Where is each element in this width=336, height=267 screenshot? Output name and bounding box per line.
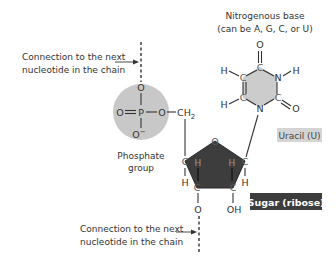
ch2-group: CH2	[177, 107, 195, 121]
sugar-label: Sugar (ribose)	[248, 193, 325, 210]
c6-h-bond	[229, 99, 239, 104]
top-connection-annotation: Connection to the next nucleotide in the…	[22, 52, 139, 75]
arrow-right-icon	[191, 230, 197, 235]
top-connection-line1: Connection to the next	[22, 52, 126, 62]
ribose-2-hydroxyl: OH	[227, 204, 242, 215]
ribose-c3: C	[194, 182, 201, 193]
uracil-c2-oxygen: O	[292, 103, 299, 114]
top-connection-line2: nucleotide in the chain	[22, 65, 125, 75]
uracil-n3-hydrogen: H	[292, 65, 299, 76]
phosphate-label-line1: Phosphate	[117, 151, 165, 161]
ribose-outer-h-left: H	[181, 177, 188, 188]
ribose-sugar: O C C C C H H H H O OH	[181, 136, 248, 215]
uracil-c6-hydrogen: H	[220, 99, 227, 110]
n3-h-bond	[283, 71, 291, 76]
bottom-connection-line2: nucleotide in the chain	[80, 237, 183, 247]
bottom-connection-annotation: Connection to the next nucleotide in the…	[80, 224, 197, 247]
phosphate-top-oxygen: O	[137, 82, 144, 93]
uracil-base: Nitrogenous base (can be A, G, C, or U) …	[217, 11, 312, 114]
uracil-c6: C	[240, 92, 247, 103]
phosphate-left-oxygen: O	[116, 107, 123, 118]
nucleotide-diagram: Connection to the next nucleotide in the…	[0, 0, 336, 267]
ribose-inner-h-left: H	[195, 158, 202, 168]
ribose-c2: C	[230, 182, 237, 193]
c5-h-bond	[229, 71, 239, 76]
uracil-top-oxygen: O	[256, 39, 263, 50]
ribose-c1: C	[242, 156, 249, 167]
nitrogenous-base-subtitle: (can be A, G, C, or U)	[217, 24, 312, 34]
nitrogenous-base-title: Nitrogenous base	[226, 11, 305, 21]
phosphate-label-line2: group	[128, 163, 154, 173]
sugar-label-text: Sugar (ribose)	[248, 197, 325, 208]
uracil-ring	[243, 67, 277, 108]
ribose-3-oxygen: O	[194, 204, 201, 215]
bottom-connection-line1: Connection to the next	[80, 224, 184, 234]
glycosidic-bond	[246, 115, 258, 157]
ribose-outer-h-right: H	[241, 177, 248, 188]
uracil-label-text: Uracil (U)	[278, 131, 320, 141]
uracil-c4: C	[257, 62, 264, 73]
uracil-c5: C	[240, 72, 247, 83]
uracil-c5-hydrogen: H	[220, 65, 227, 76]
uracil-n1: N	[256, 103, 263, 114]
phosphate-right-oxygen: O	[158, 107, 165, 118]
phosphorus-atom: P	[138, 107, 144, 118]
uracil-label: Uracil (U)	[277, 128, 322, 142]
ribose-ring-oxygen: O	[211, 136, 218, 147]
arrow-right-icon	[133, 60, 139, 65]
ribose-c4: C	[182, 156, 189, 167]
uracil-n3: N	[274, 72, 281, 83]
uracil-c2: C	[275, 92, 282, 103]
ribose-inner-h-right: H	[229, 158, 236, 168]
